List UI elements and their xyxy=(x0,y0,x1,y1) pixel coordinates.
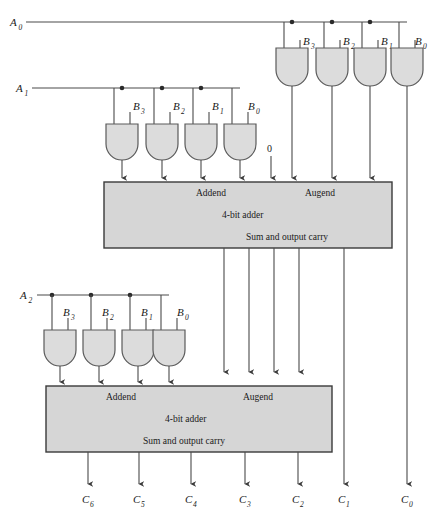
gate-input-label-b0: B xyxy=(415,35,422,47)
gate-input-label-b2: B xyxy=(102,306,109,318)
svg-text:C: C xyxy=(338,493,346,505)
carry-in-label: 0 xyxy=(267,143,272,154)
and-gate-a1b3: B 3 xyxy=(106,88,145,178)
output-label-c0: C 0 xyxy=(401,493,413,509)
adder-2-augend-label: Augend xyxy=(243,392,273,402)
output-labels: C 6 C 5 C 4 C 3 C 2 C 1 C 0 xyxy=(82,493,413,509)
gate-input-label-b2-sub: 2 xyxy=(181,107,185,116)
input-row-a0: A 0 xyxy=(9,16,407,32)
and-gate-a2b3: B 3 xyxy=(44,295,76,382)
svg-text:C: C xyxy=(185,493,193,505)
and-gate-a0b0: B 0 xyxy=(391,22,427,484)
output-label-c6-sub: 6 xyxy=(90,500,94,509)
gate-input-label-b3-sub: 3 xyxy=(70,313,75,322)
output-label-c1-sub: 1 xyxy=(346,500,350,509)
adder-1-addend-label: Addend xyxy=(196,188,226,198)
input-label-a0-sub: 0 xyxy=(19,23,23,32)
adder-2: Addend Augend 4-bit adder Sum and output… xyxy=(46,386,332,452)
and-gate-a0b1: B 1 xyxy=(354,22,393,178)
gate-input-label-b2: B xyxy=(343,35,350,47)
adder-1-title: 4-bit adder xyxy=(222,210,264,220)
svg-text:C: C xyxy=(239,493,247,505)
gate-input-label-b3-sub: 3 xyxy=(310,42,315,51)
junction-dot xyxy=(330,20,335,25)
junction-dot xyxy=(120,86,125,91)
junction-dot xyxy=(199,86,204,91)
and-gate-a2b1: B 1 xyxy=(122,295,154,382)
and-gate-a2b2: B 2 xyxy=(83,295,115,382)
gate-input-label-b0: B xyxy=(177,306,184,318)
carry-in-zero-adder1: 0 xyxy=(267,143,272,178)
gate-input-label-b2-sub: 2 xyxy=(110,313,114,322)
adder-1-augend-label: Augend xyxy=(305,188,335,198)
and-gate-a0b2: B 2 xyxy=(316,22,355,178)
gate-input-label-b3-sub: 3 xyxy=(140,107,145,116)
output-label-c4: C 4 xyxy=(185,493,197,509)
gate-input-label-b1: B xyxy=(212,100,219,112)
and-gate-a1b0: B 0 xyxy=(224,88,260,178)
svg-text:C: C xyxy=(292,493,300,505)
gate-input-label-b3: B xyxy=(63,306,70,318)
gate-input-label-b1: B xyxy=(141,306,148,318)
input-label-a1: A xyxy=(15,82,23,94)
adder-2-addend-label: Addend xyxy=(106,392,136,402)
output-label-c3: C 3 xyxy=(239,493,251,509)
output-label-c4-sub: 4 xyxy=(193,500,197,509)
adder-1: Addend Augend 4-bit adder Sum and output… xyxy=(104,182,392,248)
gate-input-label-b3: B xyxy=(303,35,310,47)
gate-input-label-b1-sub: 1 xyxy=(149,313,153,322)
junction-dot xyxy=(160,86,165,91)
gate-input-label-b0-sub: 0 xyxy=(185,313,189,322)
and-gate-row-bottom: B 3 B 2 B 1 B 0 xyxy=(44,295,189,382)
binary-multiplier-diagram: A 0 B 3 B 2 B 1 xyxy=(0,0,431,512)
and-gate-a2b0: B 0 xyxy=(153,295,189,382)
adder-2-outputs xyxy=(88,452,298,484)
adder-2-title: 4-bit adder xyxy=(165,414,207,424)
output-label-c2-sub: 2 xyxy=(300,500,304,509)
and-gate-a1b2: B 2 xyxy=(146,88,185,178)
and-gate-row-middle: B 3 B 2 B 1 B 0 xyxy=(106,88,260,178)
output-label-c1: C 1 xyxy=(338,493,350,509)
output-label-c0-sub: 0 xyxy=(409,500,413,509)
input-label-a2-sub: 2 xyxy=(29,296,33,305)
gate-input-label-b3: B xyxy=(133,100,140,112)
input-row-a1: A 1 xyxy=(15,82,240,98)
input-label-a1-sub: 1 xyxy=(25,89,29,98)
output-label-c3-sub: 3 xyxy=(246,500,251,509)
junction-dot xyxy=(290,20,295,25)
output-label-c6: C 6 xyxy=(82,493,94,509)
svg-text:C: C xyxy=(82,493,90,505)
svg-text:C: C xyxy=(401,493,409,505)
output-label-c5: C 5 xyxy=(133,493,145,509)
input-label-a0: A xyxy=(9,16,17,28)
input-label-a2: A xyxy=(19,289,27,301)
gate-input-label-b0-sub: 0 xyxy=(256,107,260,116)
junction-dot xyxy=(368,20,373,25)
and-gate-a0b3: B 3 xyxy=(276,22,315,178)
adder-2-output-label: Sum and output carry xyxy=(143,436,225,446)
output-label-c5-sub: 5 xyxy=(141,500,145,509)
gate-input-label-b1: B xyxy=(381,35,388,47)
gate-input-label-b1-sub: 1 xyxy=(220,107,224,116)
svg-text:C: C xyxy=(133,493,141,505)
adder-1-output-label: Sum and output carry xyxy=(246,232,328,242)
output-label-c2: C 2 xyxy=(292,493,304,509)
gate-input-label-b2: B xyxy=(173,100,180,112)
gate-input-label-b0: B xyxy=(248,100,255,112)
input-row-a2: A 2 xyxy=(19,289,169,305)
and-gate-a1b1: B 1 xyxy=(185,88,224,178)
